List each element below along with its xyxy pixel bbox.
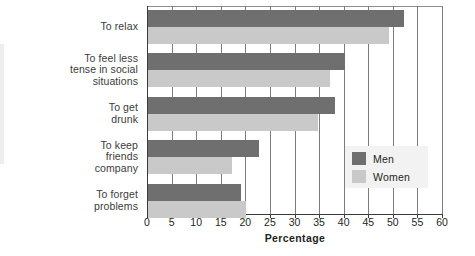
legend-label-women: Women [373,171,410,183]
x-tick-label: 15 [215,216,227,228]
x-tick-label: 60 [436,216,448,228]
category-label-3: To keep friends company [95,140,138,175]
legend-swatch-men-icon [352,152,366,165]
chart-legend: Men Women [345,146,428,188]
bar-men-4 [148,184,241,201]
legend-item-men: Men [352,151,394,166]
bar-women-2 [148,114,318,131]
legend-label-men: Men [373,153,394,165]
category-label-0: To relax [100,21,138,33]
x-tick-label: 5 [169,216,175,228]
legend-swatch-women-icon [352,170,366,183]
x-tick-label: 10 [190,216,202,228]
x-axis-tick-labels: 051015202530354045505560 [147,216,447,232]
x-axis-title: Percentage [147,232,443,244]
x-tick-label: 40 [338,216,350,228]
x-tick-label: 20 [239,216,251,228]
x-tick-label: 0 [144,216,150,228]
x-tick-label: 25 [264,216,276,228]
bar-chart: To relaxTo feel less tense in social sit… [0,0,475,256]
x-tick-label: 35 [313,216,325,228]
x-tick-label: 30 [289,216,301,228]
x-tick-label: 55 [412,216,424,228]
x-tick-label: 50 [387,216,399,228]
category-label-2: To get drunk [109,102,138,125]
bar-women-1 [148,70,330,87]
gridline [442,6,443,214]
bar-women-0 [148,27,389,44]
category-label-1: To feel less tense in social situations [70,53,138,88]
legend-item-women: Women [352,169,410,184]
category-axis-labels: To relaxTo feel less tense in social sit… [0,0,143,214]
x-tick-label: 45 [362,216,374,228]
bar-men-0 [148,10,404,27]
bar-men-1 [148,53,345,70]
category-label-4: To forget problems [94,189,138,212]
bar-women-3 [148,157,232,174]
bar-men-3 [148,140,259,157]
bar-men-2 [148,97,335,114]
